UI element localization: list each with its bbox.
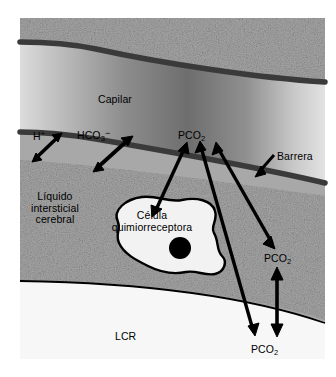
celula-line-1: Célula	[104, 210, 200, 222]
label-capilar: Capilar	[98, 94, 132, 106]
cell-nucleus	[169, 237, 191, 259]
label-pco2-interstitial: PCO2	[264, 253, 291, 268]
label-hco3: HCO3−	[77, 130, 110, 145]
label-pco2-capillary: PCO2	[178, 130, 205, 145]
label-liquido-intersticial: Líquido intersticial cerebral	[31, 191, 79, 226]
label-lcr: LCR	[115, 331, 136, 343]
figure-canvas: Capilar Barrera H+ HCO3− PCO2 PCO2 PCO2 …	[0, 0, 336, 377]
liquido-line-3: cerebral	[31, 214, 79, 226]
label-celula-quimiorreceptora: Célula quimiorreceptora	[104, 210, 200, 233]
liquido-line-1: Líquido	[31, 191, 79, 203]
diagram-svg	[0, 0, 336, 377]
celula-line-2: quimiorreceptora	[104, 222, 200, 234]
label-pco2-csf: PCO2	[251, 344, 278, 359]
label-barrera: Barrera	[277, 151, 313, 163]
label-h-plus: H+	[33, 128, 45, 143]
